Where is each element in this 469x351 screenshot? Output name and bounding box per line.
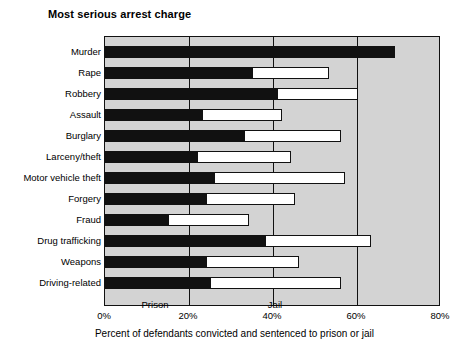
bar-row bbox=[105, 193, 439, 205]
bar-row bbox=[105, 151, 439, 163]
bar-segment-jail bbox=[265, 235, 371, 247]
category-label-larceny-theft: Larceny/theft bbox=[9, 151, 101, 163]
bar-row bbox=[105, 256, 439, 268]
bar-segment-prison bbox=[105, 67, 252, 79]
bars-layer bbox=[105, 37, 439, 305]
bar-segment-jail bbox=[252, 67, 329, 79]
bar-segment-prison bbox=[105, 193, 206, 205]
x-tick-40%: 40% bbox=[252, 310, 292, 321]
bar-row bbox=[105, 67, 439, 79]
category-label-drug-trafficking: Drug trafficking bbox=[9, 235, 101, 247]
x-tick-20%: 20% bbox=[168, 310, 208, 321]
bar-chart: Most serious arrest charge MurderRapeRob… bbox=[0, 0, 469, 351]
legend-label-jail: Jail bbox=[235, 299, 315, 310]
category-label-rape: Rape bbox=[9, 67, 101, 79]
bar-row bbox=[105, 109, 439, 121]
bar-segment-prison bbox=[105, 235, 265, 247]
plot-area: PrisonJail bbox=[104, 36, 440, 306]
bar-segment-jail bbox=[206, 256, 299, 268]
bar-row bbox=[105, 235, 439, 247]
category-label-murder: Murder bbox=[9, 46, 101, 58]
category-label-weapons: Weapons bbox=[9, 256, 101, 268]
bar-segment-jail bbox=[244, 130, 342, 142]
category-label-robbery: Robbery bbox=[9, 88, 101, 100]
bar-segment-jail bbox=[168, 214, 249, 226]
bar-segment-prison bbox=[105, 109, 202, 121]
bar-segment-prison bbox=[105, 88, 277, 100]
x-tick-80%: 80% bbox=[420, 310, 460, 321]
bar-row bbox=[105, 88, 439, 100]
bar-segment-prison bbox=[105, 277, 210, 289]
legend-label-prison: Prison bbox=[115, 299, 195, 310]
x-axis-title: Percent of defendants convicted and sent… bbox=[0, 328, 469, 339]
bar-segment-jail bbox=[206, 193, 295, 205]
bar-segment-jail bbox=[277, 88, 358, 100]
category-label-fraud: Fraud bbox=[9, 214, 101, 226]
bar-segment-jail bbox=[210, 277, 341, 289]
bar-segment-prison bbox=[105, 172, 214, 184]
bar-segment-jail bbox=[197, 151, 290, 163]
x-tick-60%: 60% bbox=[336, 310, 376, 321]
bar-row bbox=[105, 46, 439, 58]
category-label-burglary: Burglary bbox=[9, 130, 101, 142]
bar-segment-prison bbox=[105, 46, 395, 58]
bar-row bbox=[105, 172, 439, 184]
bar-segment-prison bbox=[105, 256, 206, 268]
category-label-motor-vehicle-theft: Motor vehicle theft bbox=[9, 172, 101, 184]
x-tick-0%: 0% bbox=[84, 310, 124, 321]
x-axis-ticks: 0%20%40%60%80% bbox=[0, 310, 469, 324]
bar-row bbox=[105, 214, 439, 226]
bar-row bbox=[105, 277, 439, 289]
category-label-assault: Assault bbox=[9, 109, 101, 121]
bar-segment-jail bbox=[214, 172, 345, 184]
bar-segment-prison bbox=[105, 151, 197, 163]
category-axis-labels: MurderRapeRobberyAssaultBurglaryLarceny/… bbox=[0, 36, 101, 306]
chart-title: Most serious arrest charge bbox=[48, 8, 191, 20]
category-label-forgery: Forgery bbox=[9, 193, 101, 205]
category-label-driving-related: Driving-related bbox=[9, 277, 101, 289]
bar-row bbox=[105, 130, 439, 142]
bar-segment-prison bbox=[105, 214, 168, 226]
bar-segment-prison bbox=[105, 130, 244, 142]
bar-segment-jail bbox=[202, 109, 283, 121]
